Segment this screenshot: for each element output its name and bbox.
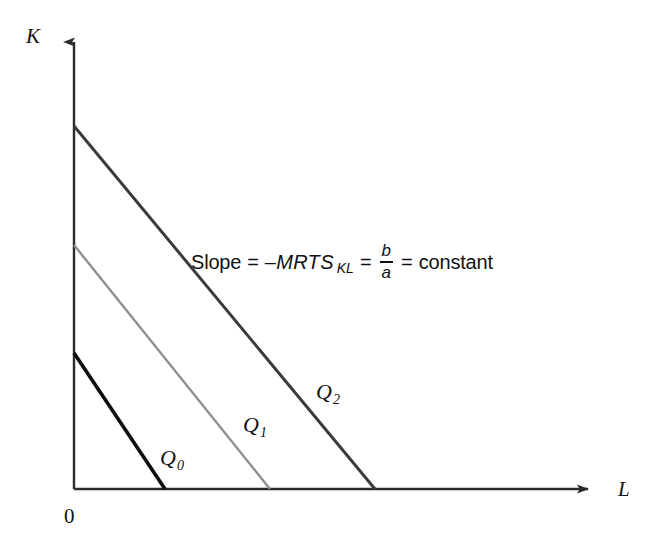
- mrts-term: MRTS: [276, 251, 334, 274]
- isoquant-q0-label-subscript: 0: [177, 458, 184, 473]
- slope-annotation: Slope = –MRTSKL = b a = constant: [191, 243, 493, 283]
- isoquant-q0-label: Q0: [160, 447, 183, 469]
- isoquant-q1-label-subscript: 1: [260, 425, 267, 440]
- minus-sign: –: [265, 251, 276, 274]
- isoquant-q2-label: Q2: [316, 381, 339, 403]
- isoquant-q1-label: Q1: [243, 414, 266, 436]
- isoquant-q2-label-subscript: 2: [333, 392, 340, 407]
- isoquant-q0-label-base: Q: [160, 445, 176, 470]
- isoquant-q1-label-base: Q: [243, 412, 259, 437]
- isoquant-q2-line: [74, 126, 375, 489]
- origin-label: 0: [64, 506, 75, 527]
- isoquant-figure: K L 0 Q0 Q1 Q2 Slope = –MRTSKL = b a = c…: [0, 0, 656, 551]
- equals-sign-2: =: [354, 251, 378, 274]
- b-over-a-fraction: b a: [378, 242, 395, 282]
- fraction-denominator: a: [380, 263, 393, 282]
- constant-word: constant: [419, 251, 493, 274]
- k-axis-label: K: [26, 26, 40, 47]
- isoquant-q2-label-base: Q: [316, 379, 332, 404]
- mrts-subscript: KL: [334, 260, 354, 276]
- equals-sign-3: =: [395, 251, 419, 274]
- isoquant-q0-line: [74, 353, 165, 489]
- slope-word: Slope: [191, 251, 241, 274]
- fraction-numerator: b: [380, 242, 393, 261]
- l-axis-label: L: [618, 479, 630, 500]
- equals-sign-1: =: [241, 251, 265, 274]
